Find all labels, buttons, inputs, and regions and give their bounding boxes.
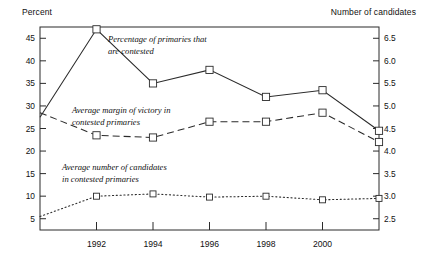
left-tick-label: 35 <box>26 78 36 88</box>
data-point-marker <box>93 26 100 33</box>
left-tick-label: 25 <box>26 124 36 134</box>
right-axis-title: Number of candidates <box>331 7 416 17</box>
left-tick-label: 20 <box>26 146 36 156</box>
series-annotation-1: Average margin of victory in <box>71 105 171 115</box>
right-tick-label: 3.0 <box>384 191 396 201</box>
left-tick-label: 30 <box>26 101 36 111</box>
left-tick-label: 45 <box>26 33 36 43</box>
series-annotation-2: in contested primaries <box>62 174 140 184</box>
x-tick-label: 1996 <box>200 239 219 249</box>
left-tick-label: 10 <box>26 191 36 201</box>
x-tick-label: 1994 <box>143 239 162 249</box>
data-point-marker <box>150 191 156 197</box>
x-tick-label: 1998 <box>256 239 275 249</box>
data-point-marker <box>320 197 326 203</box>
data-point-marker <box>93 132 100 139</box>
data-point-marker <box>206 118 213 125</box>
data-point-marker <box>207 194 213 200</box>
x-tick-label: 2000 <box>313 239 332 249</box>
data-point-marker <box>206 66 213 73</box>
left-tick-label: 15 <box>26 169 36 179</box>
data-point-marker <box>376 195 382 201</box>
series-annotation-2: Average number of candidates <box>61 162 167 172</box>
x-axis-ticks: 19921994199619982000 <box>87 222 332 249</box>
series-annotation-0: Percentage of primaries that <box>107 34 207 44</box>
right-tick-label: 6.5 <box>384 33 396 43</box>
left-tick-label: 5 <box>30 214 35 224</box>
data-point-marker <box>319 109 326 116</box>
data-point-marker <box>149 134 156 141</box>
data-point-marker <box>375 127 382 134</box>
data-point-marker <box>262 118 269 125</box>
right-tick-label: 5.0 <box>384 101 396 111</box>
left-axis-title: Percent <box>22 7 52 17</box>
series-annotation-1: contested primaries <box>72 117 141 127</box>
data-point-marker <box>375 138 382 145</box>
right-tick-label: 3.5 <box>384 169 396 179</box>
data-point-marker <box>94 193 100 199</box>
series-annotation-0: are contested <box>108 46 154 56</box>
data-point-marker <box>263 193 269 199</box>
right-tick-label: 5.5 <box>384 78 396 88</box>
data-point-marker <box>149 80 156 87</box>
data-point-marker <box>319 87 326 94</box>
x-tick-label: 1992 <box>87 239 106 249</box>
left-tick-label: 40 <box>26 56 36 66</box>
chart-plot-area: 51015202530354045 2.53.03.54.04.55.05.56… <box>0 0 424 264</box>
data-point-marker <box>262 93 269 100</box>
left-axis-ticks: 51015202530354045 <box>26 33 46 223</box>
right-tick-label: 2.5 <box>384 214 396 224</box>
chart-figure: Percent Number of candidates 51015202530… <box>0 0 424 264</box>
right-tick-label: 4.5 <box>384 124 396 134</box>
right-tick-label: 6.0 <box>384 56 396 66</box>
right-tick-label: 4.0 <box>384 146 396 156</box>
series-annotations: Percentage of primaries thatare conteste… <box>61 34 207 184</box>
